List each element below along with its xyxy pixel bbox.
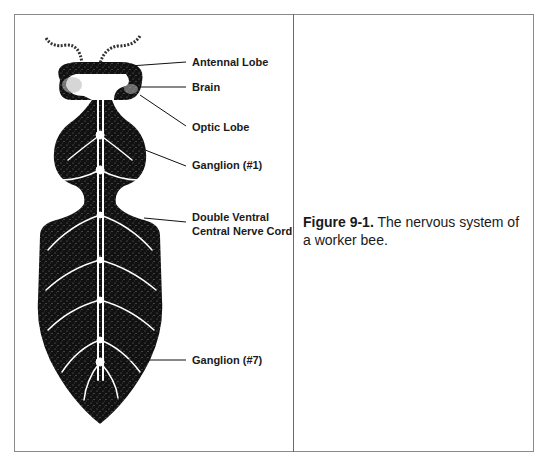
label-brain: Brain xyxy=(192,80,220,94)
label-ganglion-7: Ganglion (#7) xyxy=(192,353,262,367)
head xyxy=(58,62,142,100)
caption-label: Figure 9-1. xyxy=(303,214,374,230)
antennae xyxy=(46,36,140,64)
label-central-nerve-cord: Central Nerve Cord xyxy=(192,224,292,238)
figure-caption: Figure 9-1. The nervous system of a work… xyxy=(303,213,528,249)
label-antennal-lobe: Antennal Lobe xyxy=(192,55,268,69)
label-ganglion-1: Ganglion (#1) xyxy=(192,158,262,172)
label-optic-lobe: Optic Lobe xyxy=(192,120,249,134)
label-double-ventral: Double Ventral xyxy=(192,210,269,224)
